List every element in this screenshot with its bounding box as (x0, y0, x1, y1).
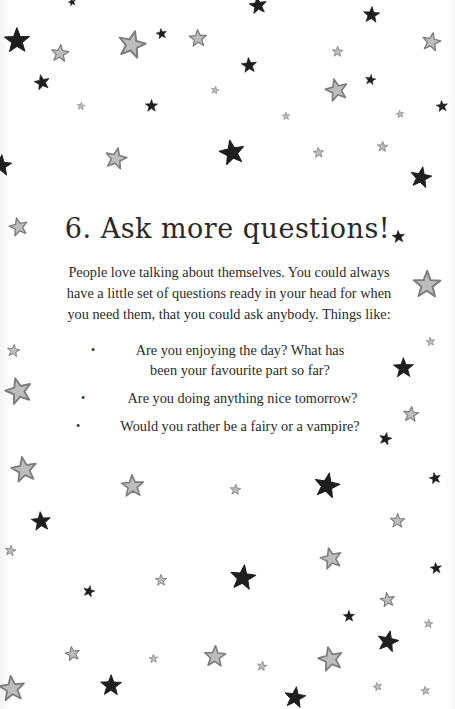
dark-star-icon (34, 74, 50, 90)
dark-star-icon (241, 57, 257, 73)
grey-star-icon (11, 456, 37, 482)
grey-star-icon (396, 110, 404, 118)
dark-star-icon (363, 6, 380, 23)
grey-star-icon (5, 377, 32, 404)
dark-star-icon (249, 0, 267, 14)
dark-star-icon (156, 28, 167, 39)
grey-star-icon (282, 112, 290, 120)
grey-star-icon (325, 78, 348, 101)
grey-star-icon (424, 619, 433, 628)
grey-star-icon (313, 147, 324, 158)
grey-star-icon (422, 32, 441, 51)
dark-star-icon (0, 154, 12, 176)
dark-star-icon (314, 472, 340, 498)
grey-star-icon (403, 406, 419, 422)
grey-star-icon (7, 344, 20, 357)
dark-star-icon (68, 0, 76, 6)
grey-star-icon (65, 646, 80, 661)
question-line: Are you enjoying the day? What has (136, 342, 345, 358)
dark-star-icon (429, 472, 441, 484)
dark-star-icon (100, 674, 122, 696)
grey-star-icon (230, 484, 241, 495)
grey-star-icon (189, 29, 207, 47)
intro-paragraph: People love talking about themselves. Yo… (66, 262, 392, 325)
question-text: Are you doing anything nice tomorrow? (128, 388, 358, 408)
book-page: 6. Ask more questions! People love talki… (0, 0, 455, 709)
dark-star-icon (410, 166, 432, 188)
dark-star-icon (230, 564, 256, 590)
dark-star-icon (219, 139, 245, 165)
grey-star-icon (257, 661, 267, 671)
grey-star-icon (332, 46, 343, 57)
dark-star-icon (430, 562, 442, 574)
question-list: • Are you enjoying the day? What has bee… (60, 340, 390, 444)
question-item: • Would you rather be a fairy or a vampi… (60, 416, 390, 436)
dark-star-icon (365, 74, 376, 85)
dark-star-icon (83, 585, 95, 597)
section-heading: 6. Ask more questions! (0, 213, 455, 244)
dark-star-icon (393, 357, 414, 378)
grey-star-icon (318, 646, 343, 671)
bullet-icon: • (76, 416, 80, 436)
grey-star-icon (320, 547, 342, 569)
question-line: been your favourite part so far? (150, 362, 330, 378)
grey-star-icon (390, 513, 405, 528)
dark-star-icon (284, 686, 306, 708)
grey-star-icon (51, 44, 69, 62)
grey-star-icon (77, 102, 85, 110)
bullet-icon: • (91, 340, 95, 360)
bullet-icon: • (81, 388, 85, 408)
grey-star-icon (211, 86, 219, 94)
question-item: • Are you enjoying the day? What has bee… (60, 340, 390, 380)
grey-star-icon (121, 474, 144, 497)
grey-star-icon (105, 147, 127, 169)
grey-star-icon (149, 654, 158, 663)
question-item: • Are you doing anything nice tomorrow? (60, 388, 390, 408)
dark-star-icon (343, 610, 355, 622)
dark-star-icon (145, 99, 158, 112)
dark-star-icon (436, 100, 448, 112)
grey-star-icon (426, 337, 435, 346)
dark-star-icon (31, 511, 51, 531)
grey-star-icon (380, 592, 395, 607)
grey-star-icon (377, 141, 388, 152)
grey-star-icon (155, 574, 167, 586)
dark-star-icon (377, 630, 399, 652)
grey-star-icon (421, 686, 430, 695)
grey-star-icon (118, 30, 146, 58)
grey-star-icon (204, 645, 226, 667)
question-text: Are you enjoying the day? What has been … (136, 340, 345, 380)
grey-star-icon (413, 270, 441, 298)
grey-star-icon (0, 675, 25, 701)
grey-star-icon (373, 682, 382, 691)
dark-star-icon (4, 27, 30, 53)
question-text: Would you rather be a fairy or a vampire… (120, 416, 359, 436)
grey-star-icon (5, 545, 16, 556)
